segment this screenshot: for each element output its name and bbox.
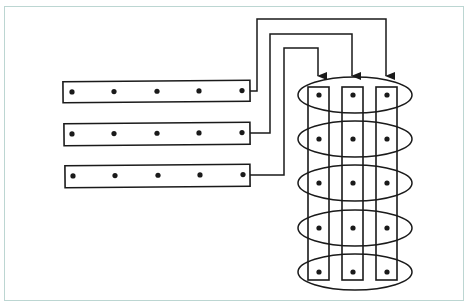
- node-dot: [350, 180, 355, 185]
- node-dot: [111, 89, 116, 94]
- node-dot: [350, 269, 355, 274]
- node-dot: [239, 130, 244, 135]
- node-dot: [350, 92, 355, 97]
- bars-to-cylinder-diagram: [0, 0, 469, 304]
- node-dot: [316, 225, 321, 230]
- node-dot: [154, 131, 159, 136]
- node-dot: [239, 88, 244, 93]
- node-dot: [316, 136, 321, 141]
- node-dot: [384, 180, 389, 185]
- node-dot: [112, 173, 117, 178]
- node-dot: [350, 225, 355, 230]
- node-dot: [384, 269, 389, 274]
- node-dot: [155, 173, 160, 178]
- column-1: [308, 87, 329, 280]
- node-dot: [69, 131, 74, 136]
- node-dot: [240, 172, 245, 177]
- node-dot: [350, 136, 355, 141]
- node-dot: [111, 131, 116, 136]
- bar-2: [64, 122, 250, 146]
- node-dot: [69, 89, 74, 94]
- bar-1: [63, 80, 250, 103]
- bar-3: [65, 164, 250, 188]
- node-dot: [384, 225, 389, 230]
- node-dot: [384, 92, 389, 97]
- node-dot: [316, 180, 321, 185]
- column-2: [342, 87, 363, 280]
- node-dot: [316, 269, 321, 274]
- node-dot: [197, 172, 202, 177]
- cylinder-columns: [308, 87, 397, 280]
- node-dot: [316, 92, 321, 97]
- node-bars: [63, 80, 250, 188]
- wire-bar-2-to-column-2: [250, 34, 352, 133]
- node-dot: [196, 130, 201, 135]
- node-dot: [154, 89, 159, 94]
- node-dot: [70, 173, 75, 178]
- node-dot: [196, 88, 201, 93]
- column-3: [376, 87, 397, 280]
- node-dot: [384, 136, 389, 141]
